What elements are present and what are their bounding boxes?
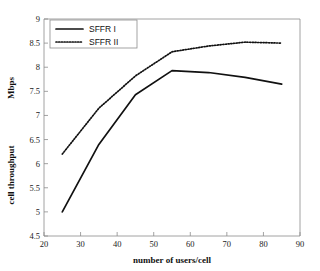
x-tick-label: 60 [186,239,195,249]
data-series-group [62,42,281,212]
x-tick-label: 20 [40,239,49,249]
x-tick-label: 40 [113,239,122,249]
y-tick-label: 6 [36,159,40,169]
y-tick-label: 8.5 [29,38,40,48]
y-axis-ticks: 4.555.566.577.588.59 [29,14,48,241]
line-chart: 2030405060708090 4.555.566.577.588.59 nu… [0,0,320,271]
y-tick-label: 4.5 [29,231,40,241]
y-tick-label: 7.5 [29,86,40,96]
x-tick-label: 70 [223,239,232,249]
x-axis-title: number of users/cell [133,255,211,265]
series-line-sffr-i [62,71,281,212]
y-tick-label: 6.5 [29,135,40,145]
y-axis-title: cell throughput [6,145,16,204]
x-axis-ticks: 2030405060708090 [40,232,305,249]
x-tick-label: 50 [149,239,158,249]
x-tick-label: 80 [259,239,268,249]
y-tick-label: 5.5 [29,183,40,193]
chart-figure: 2030405060708090 4.555.566.577.588.59 nu… [0,0,320,271]
y-tick-label: 9 [36,14,40,24]
series-line-sffr-ii [62,42,281,154]
x-tick-label: 30 [76,239,85,249]
y-tick-label: 7 [36,110,40,120]
x-tick-label: 90 [296,239,305,249]
legend-label-sffr-ii: SFFR II [89,37,118,47]
legend-label-sffr-i: SFFR I [89,24,116,34]
y-tick-label: 5 [36,207,40,217]
y-axis-unit-label: Mbps [6,77,16,100]
y-tick-label: 8 [36,62,40,72]
chart-legend: SFFR ISFFR II [50,20,137,48]
